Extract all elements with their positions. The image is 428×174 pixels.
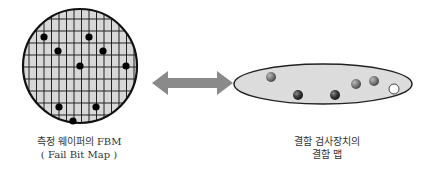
- wafer-fbm-caption-line1: 측정 웨이퍼의 FBM: [14, 135, 144, 148]
- defect-map-caption: 결함 검사장치의 결함 맵: [262, 135, 392, 161]
- defect-map-caption-line1: 결함 검사장치의: [262, 135, 392, 148]
- defect-map-caption-line2: 결함 맵: [262, 148, 392, 161]
- double-arrow-icon: [152, 71, 233, 95]
- wafer-fbm-caption: 측정 웨이퍼의 FBM ( Fail Bit Map ): [14, 135, 144, 161]
- wafer-fbm-caption-line2: ( Fail Bit Map ): [14, 148, 144, 161]
- defect-map: [234, 64, 412, 104]
- wafer-fbm: [0, 0, 160, 140]
